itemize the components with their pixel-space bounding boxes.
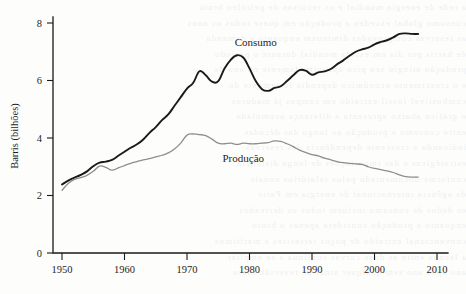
series-lines	[62, 33, 418, 190]
y-tick-label: 0	[37, 248, 42, 259]
x-tick-label: 2010	[427, 264, 448, 275]
y-tick-label: 4	[37, 133, 43, 144]
x-tick-label: 1950	[52, 264, 73, 275]
x-axis-tick-marks	[62, 253, 437, 260]
series-inline-labels: ConsumoProdução	[222, 36, 277, 164]
x-tick-label: 1960	[114, 264, 135, 275]
y-tick-label: 8	[37, 18, 42, 29]
x-tick-label: 2000	[364, 264, 385, 275]
chart-figure: 02468 1950196019701980199020002010 Barri…	[0, 0, 466, 294]
series-label-consumo: Consumo	[235, 36, 278, 48]
y-axis-tick-marks	[47, 23, 53, 253]
y-tick-label: 6	[37, 75, 42, 86]
y-axis-title: Barris (bilhões)	[9, 103, 21, 169]
plot-area: 02468 1950196019701980199020002010 Barri…	[9, 17, 448, 275]
x-tick-label: 1970	[177, 264, 198, 275]
x-tick-label: 1990	[302, 264, 323, 275]
x-axis-tick-labels: 1950196019701980199020002010	[52, 264, 448, 275]
y-axis-tick-labels: 02468	[37, 18, 43, 259]
x-tick-label: 1980	[239, 264, 260, 275]
oil-consumption-production-line-chart: 02468 1950196019701980199020002010 Barri…	[0, 0, 466, 294]
y-tick-label: 2	[37, 190, 42, 201]
series-label-produo: Produção	[222, 152, 264, 164]
chart-axes	[53, 17, 448, 253]
